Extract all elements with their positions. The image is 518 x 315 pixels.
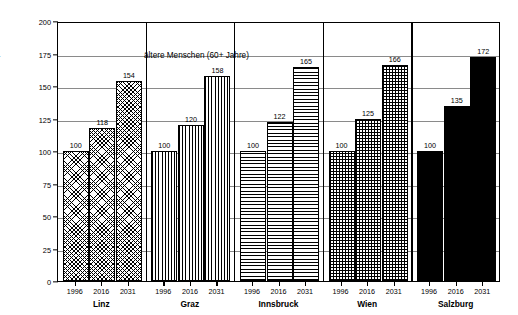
y-axis-tick-label: 150 xyxy=(25,83,51,92)
x-axis-tick-mark xyxy=(163,282,164,286)
gridline xyxy=(58,56,499,57)
bar-value-label: 122 xyxy=(274,112,286,121)
bar-value-label: 100 xyxy=(70,141,82,150)
group-separator xyxy=(411,22,412,282)
bar-value-label: 125 xyxy=(362,109,374,118)
x-axis-tick-mark xyxy=(367,282,368,286)
bar: 125 xyxy=(355,119,381,282)
bar-value-label: 100 xyxy=(158,141,170,150)
y-axis-tick-label: 175 xyxy=(25,50,51,59)
bar: 120 xyxy=(178,125,204,281)
x-axis-tick-mark xyxy=(482,282,483,286)
bar: 122 xyxy=(267,122,293,281)
bar-value-label: 100 xyxy=(247,141,259,150)
bar-value-label: 166 xyxy=(389,55,401,64)
group-separator xyxy=(146,22,147,282)
x-axis-year-label: 2031 xyxy=(108,287,148,296)
bar: 118 xyxy=(89,128,115,281)
bar: 100 xyxy=(417,151,443,281)
group-separator xyxy=(234,22,235,282)
x-axis-tick-mark xyxy=(394,282,395,286)
x-axis-tick-mark xyxy=(190,282,191,286)
x-axis-year-label: 2031 xyxy=(285,287,325,296)
bar-value-label: 118 xyxy=(97,118,108,127)
y-axis-tick-label: 25 xyxy=(25,245,51,254)
x-axis-group-label: Salzburg xyxy=(396,299,516,309)
bar: 100 xyxy=(329,151,355,281)
x-axis-tick-mark xyxy=(341,282,342,286)
group-separator xyxy=(323,22,324,282)
x-axis-year-label: 2031 xyxy=(374,287,414,296)
y-axis-tick-label: 75 xyxy=(25,180,51,189)
x-axis-tick-mark xyxy=(429,282,430,286)
x-axis-year-label: 2031 xyxy=(462,287,502,296)
bar: 172 xyxy=(470,57,496,281)
plot-area: 1001181541001201581001221651001251661001… xyxy=(57,22,500,282)
bar-value-label: 154 xyxy=(123,71,135,80)
x-axis-year-label: 2031 xyxy=(196,287,236,296)
bar-value-label: 100 xyxy=(336,141,348,150)
x-axis-tick-mark xyxy=(128,282,129,286)
bar-value-label: 158 xyxy=(211,66,223,75)
bar: 100 xyxy=(151,151,177,281)
y-axis-label: Indexwerte; 1996=100 xyxy=(0,0,1,96)
bar: 100 xyxy=(63,151,89,281)
y-axis-tick-label: 125 xyxy=(25,115,51,124)
y-axis-tick-label: 0 xyxy=(25,278,51,287)
bar: 154 xyxy=(116,81,142,281)
x-axis-tick-mark xyxy=(456,282,457,286)
bar-value-label: 135 xyxy=(451,96,463,105)
bar: 158 xyxy=(204,76,230,281)
x-axis-tick-mark xyxy=(75,282,76,286)
y-axis-tick-label: 100 xyxy=(25,148,51,157)
x-axis-tick-mark xyxy=(216,282,217,286)
bar-value-label: 120 xyxy=(185,115,197,124)
bar: 135 xyxy=(444,106,470,282)
bar-value-label: 172 xyxy=(477,47,489,56)
x-axis-tick-mark xyxy=(279,282,280,286)
bar-value-label: 100 xyxy=(424,141,436,150)
y-axis-tick-label: 50 xyxy=(25,213,51,222)
chart-title: ältere Menschen (60+ Jahre) xyxy=(144,51,249,60)
bar: 165 xyxy=(293,67,319,282)
bar: 100 xyxy=(240,151,266,281)
y-axis-tick-label: 200 xyxy=(25,18,51,27)
bar: 166 xyxy=(382,65,408,281)
x-axis-tick-mark xyxy=(305,282,306,286)
x-axis-tick-mark xyxy=(101,282,102,286)
chart-root: Indexwerte; 1996=100 0255075100125150175… xyxy=(0,0,518,315)
bar-value-label: 165 xyxy=(300,57,312,66)
x-axis-tick-mark xyxy=(252,282,253,286)
